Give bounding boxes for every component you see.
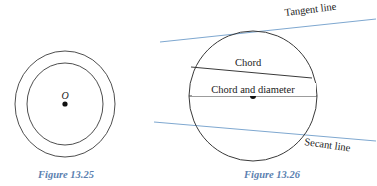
center-dot	[62, 101, 67, 106]
chord-and-diameter-label: Chord and diameter	[211, 84, 295, 95]
tangent-line	[160, 19, 376, 42]
figure-13-25-caption: Figure 13.25	[37, 169, 94, 180]
chord-line	[191, 67, 312, 78]
figure-13-25-group: O Figure 13.25	[15, 51, 115, 180]
figure-13-26-caption: Figure 13.26	[243, 169, 301, 180]
secant-line	[154, 122, 376, 141]
tangent-line-label: Tangent line	[284, 1, 337, 18]
figure-13-26-group: Chord Chord and diameter Tangent line Se…	[154, 1, 376, 180]
figures-svg: O Figure 13.25 Chord Chord and diameter	[0, 0, 377, 186]
center-label-o: O	[61, 90, 68, 101]
chord-label: Chord	[235, 57, 262, 68]
figure-board: O Figure 13.25 Chord Chord and diameter	[0, 0, 377, 186]
